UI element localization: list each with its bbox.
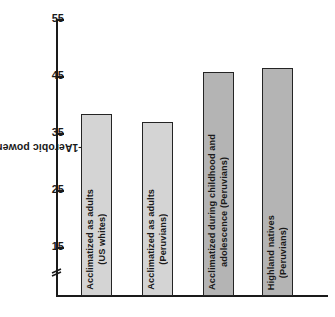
- bar-label-box: Acclimatized as adults (Peruvians): [143, 189, 172, 290]
- y-tick-row-15: 15: [30, 241, 64, 253]
- y-tick-row-45: 45: [30, 70, 64, 82]
- y-tick-row-35: 35: [30, 127, 64, 139]
- y-tick-label-25: 25: [42, 184, 64, 195]
- y-axis-label: Aerobic power (ml/kg•min−1): [8, 0, 30, 296]
- bar-acclimatized-adults-peruvians[interactable]: Acclimatized as adults (Peruvians): [142, 122, 173, 296]
- bar-label-box: Acclimatized as adults (US whites): [82, 189, 111, 290]
- bar-acclimatized-childhood-adolescence-peruvians[interactable]: Acclimatized during childhood and adoles…: [203, 72, 234, 296]
- axis-break-icon: [50, 262, 64, 278]
- bar-label: Highland natives (Peruvians): [266, 215, 289, 290]
- y-tick-row-25: 25: [30, 184, 64, 196]
- y-tick-row-55: 55: [30, 13, 64, 25]
- bar-label: Acclimatized during childhood and adoles…: [207, 134, 230, 290]
- y-axis-line: [56, 19, 58, 296]
- bar-label-box: Acclimatized during childhood and adoles…: [204, 134, 233, 290]
- bar-label: Acclimatized as adults (US whites): [85, 189, 108, 290]
- bar-chart: Aerobic power (ml/kg•min−1) 55 45 35 25 …: [0, 0, 335, 317]
- bar-acclimatized-adults-us-whites[interactable]: Acclimatized as adults (US whites): [81, 114, 112, 296]
- bar-highland-natives-peruvians[interactable]: Highland natives (Peruvians): [262, 68, 293, 296]
- bar-label-box: Highland natives (Peruvians): [263, 215, 292, 290]
- y-tick-label-35: 35: [42, 127, 64, 138]
- y-tick-label-45: 45: [42, 70, 64, 81]
- y-tick-label-15: 15: [42, 241, 64, 252]
- bar-label: Acclimatized as adults (Peruvians): [146, 189, 169, 290]
- y-tick-label-55: 55: [42, 13, 64, 24]
